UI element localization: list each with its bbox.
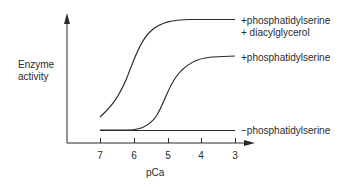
y-axis-label-line2: activity: [18, 71, 49, 82]
series-label-ps-dag-line1: +phosphatidylserine: [241, 15, 330, 26]
x-ticks: [101, 138, 236, 143]
x-tick-label-6: 6: [127, 150, 141, 161]
series-label-ps-dag-line2: + diacylglycerol: [241, 27, 310, 38]
x-tick-label-5: 5: [161, 150, 175, 161]
y-axis-arrow-icon: [64, 13, 70, 24]
x-axis-arrow-icon: [244, 140, 255, 146]
curve-ps-dag: [100, 20, 235, 118]
series-label-ps: +phosphatidylserine: [241, 52, 330, 63]
x-tick-label-4: 4: [194, 150, 208, 161]
x-tick-label-7: 7: [93, 150, 107, 161]
series-label-no-ps: −phosphatidylserine: [241, 125, 330, 136]
x-axis-label: pCa: [146, 167, 164, 178]
y-axis-label-line1: Enzyme: [18, 59, 54, 70]
x-tick-label-3: 3: [228, 150, 242, 161]
